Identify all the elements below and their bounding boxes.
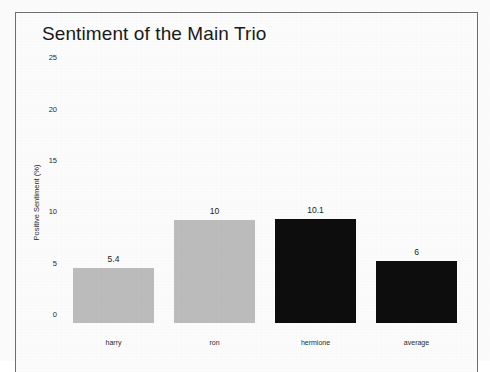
plot-area: 0510152025 5.4harry10ron10.1hermione6ave… [63, 51, 467, 323]
y-axis-title: Positive Sentiment (%) [32, 123, 41, 283]
chart-title: Sentiment of the Main Trio [42, 23, 266, 45]
y-axis-tick-label: 20 [49, 104, 57, 113]
x-axis-tick-label: hermione [275, 339, 356, 346]
y-axis-tick-label: 25 [49, 53, 57, 62]
y-axis-tick-label: 5 [53, 258, 57, 267]
bar-hermione: 10.1hermione [275, 219, 356, 323]
bar-value-label: 5.4 [73, 254, 154, 264]
bar-value-label: 6 [376, 247, 457, 257]
y-axis-tick-label: 10 [49, 207, 57, 216]
bar-value-label: 10 [174, 206, 255, 216]
y-axis-tick-label: 15 [49, 156, 57, 165]
y-axis-tick-label: 0 [53, 310, 57, 319]
chart-figure-frame: Sentiment of the Main Trio Positive Sent… [15, 12, 478, 372]
bar-ron: 10ron [174, 220, 255, 323]
x-axis-tick-label: ron [174, 339, 255, 346]
bar-value-label: 10.1 [275, 205, 356, 215]
x-axis-tick-label: average [376, 339, 457, 346]
bar-average: 6average [376, 261, 457, 323]
x-axis-tick-label: harry [73, 339, 154, 346]
bar-harry: 5.4harry [73, 268, 154, 323]
